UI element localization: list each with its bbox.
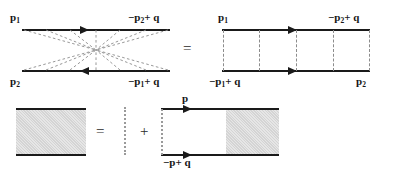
- crossed-label-top-left: p1: [10, 12, 20, 23]
- ladder-rung-5: [369, 30, 370, 71]
- bottom-row-equals-sign: =: [96, 124, 104, 139]
- ladder-label-top-right: −p2+ q: [328, 12, 359, 23]
- ladder-label-top-left: p1: [218, 12, 228, 23]
- crossed-bottom-fermion-line: [22, 70, 170, 72]
- iterated-top-arrow-icon: [183, 105, 192, 113]
- ladder-rung-2: [259, 30, 260, 71]
- ladder-rung-4: [333, 30, 334, 71]
- blob-bottom-line: [16, 154, 86, 156]
- crossed-bottom-arrow-icon: [80, 67, 89, 75]
- top-row-equals-sign: =: [183, 41, 191, 56]
- ladder-rung-3: [296, 30, 297, 71]
- crossed-top-arrow-icon: [80, 26, 89, 34]
- ladder-rung-1: [223, 30, 224, 71]
- crossed-label-top-right: −p2+ q: [128, 12, 159, 23]
- blob-shade: [16, 110, 86, 154]
- ladder-label-bottom-right: p2: [356, 76, 366, 87]
- ladder-label-bottom-left: −p1+ q: [209, 76, 240, 87]
- bottom-row-plus-sign: +: [140, 124, 148, 139]
- iterated-kernel-edge: [161, 109, 163, 155]
- iterated-label-top: p: [182, 93, 188, 104]
- crossed-label-bottom-right: −p1+ q: [128, 76, 159, 87]
- blob-top-line: [16, 108, 86, 110]
- feynman-diagram-figure: p1 −p2+ q p2 −p1+ q = p1 −p2+ q −p1+ q p…: [0, 0, 394, 172]
- interaction-kernel: [124, 107, 126, 155]
- iterated-label-bottom: −p+ q: [163, 157, 191, 168]
- iterated-top-fermion-line: [161, 108, 279, 110]
- crossed-label-bottom-left: p2: [10, 76, 20, 87]
- crossed-top-fermion-line: [22, 29, 170, 31]
- iterated-blob-shade: [226, 110, 279, 154]
